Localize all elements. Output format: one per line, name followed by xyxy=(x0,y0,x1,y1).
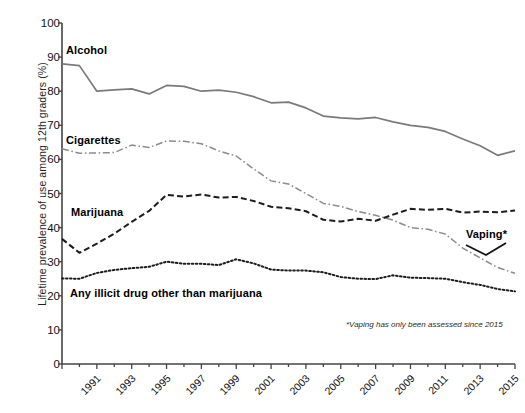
series-line xyxy=(62,64,515,155)
series-line xyxy=(62,141,515,273)
axes xyxy=(58,23,515,369)
series-label-illicit-drug: Any illicit drug other than marijuana xyxy=(70,287,262,299)
series-label-marijuana: Marijuana xyxy=(71,206,123,218)
series-label-cigarettes: Cigarettes xyxy=(66,134,121,146)
chart-container: Lifetime prevalence of use among 12th gr… xyxy=(0,0,525,413)
vaping-pointer-icon xyxy=(466,243,506,255)
series-lines xyxy=(62,64,515,291)
series-label-vaping: Vaping* xyxy=(466,228,507,240)
series-line xyxy=(62,195,515,253)
series-label-alcohol: Alcohol xyxy=(66,44,107,56)
chart-footnote: *Vaping has only been assessed since 201… xyxy=(346,320,503,329)
